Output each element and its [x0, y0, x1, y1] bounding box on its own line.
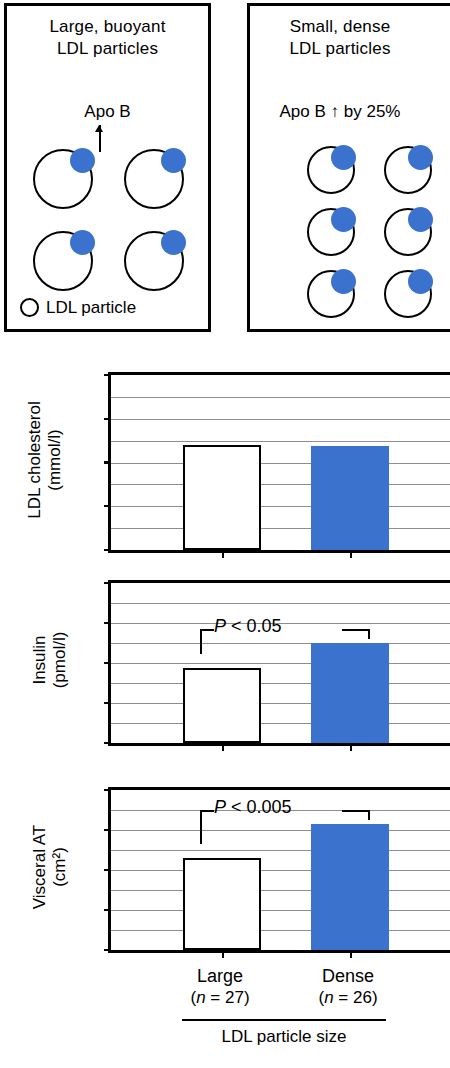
y-tick-mark: [104, 418, 111, 420]
panel-right-title-line2: LDL particles: [250, 38, 430, 60]
chart-2-ylabel: Visceral AT (cm²): [30, 807, 70, 927]
chart-1-ylabel: Insulin (pmol/l): [30, 605, 70, 715]
apo-b-dot-icon: [331, 207, 356, 232]
y-tick-mark: [104, 829, 111, 831]
p-value-label: P < 0.05: [214, 617, 282, 635]
apo-b-arrow-icon-left: [99, 125, 100, 152]
y-tick-mark: [104, 789, 111, 791]
chart-1-ylabel-line2: (pmol/l): [50, 632, 69, 689]
ldl-particle-circle-icon: [20, 298, 39, 317]
chart-0-ylabel: LDL cholesterol (mmol/l): [25, 375, 65, 545]
gridline: [111, 463, 450, 464]
panel-large-buoyant-ldl: Large, buoyant LDL particles Apo B LDL p…: [4, 3, 211, 332]
apo-b-dot-icon: [331, 145, 356, 170]
y-tick-mark: [104, 662, 111, 664]
gridline: [111, 397, 450, 398]
panel-left-title-line2: LDL particles: [7, 38, 208, 60]
ldl-particle-large: [33, 149, 93, 209]
legend-label: LDL particle: [46, 298, 136, 317]
apo-b-dot-icon: [70, 148, 95, 173]
panel-small-dense-ldl: Small, dense LDL particles Apo B ↑ by 25…: [247, 3, 450, 332]
chart-visceral-at: Visceral AT (cm²) 050100150200P < 0.005: [0, 787, 450, 953]
apo-b-label-left: Apo B: [7, 102, 208, 122]
ldl-particle-small: [384, 270, 432, 318]
chart-1-plot-area: 04080120160P < 0.05: [108, 580, 450, 746]
x-group-large: Large (n = 27): [165, 965, 275, 1009]
p-value-label: P < 0.005: [214, 798, 292, 816]
apo-b-dot-icon: [161, 148, 186, 173]
x-tick-mark: [222, 950, 224, 958]
ldl-particle-large: [124, 149, 184, 209]
ldl-particle-large: [33, 231, 93, 291]
apo-b-dot-icon: [408, 145, 433, 170]
y-tick-mark: [104, 461, 111, 463]
chart-0-ylabel-line2: (mmol/l): [45, 429, 64, 490]
bar-large: [183, 445, 261, 550]
chart-ldl-cholesterol: LDL cholesterol (mmol/l) 0.01.53.04.56.0: [0, 372, 450, 553]
legend-ldl-particle: LDL particle: [20, 298, 136, 317]
panel-left-title-line1: Large, buoyant: [7, 16, 208, 38]
y-tick-mark: [104, 909, 111, 911]
ldl-particle-small: [307, 208, 355, 256]
apo-b-dot-icon: [331, 269, 356, 294]
x-tick-mark: [350, 550, 352, 558]
y-tick-mark: [104, 549, 111, 551]
gridline: [111, 528, 450, 529]
y-tick-mark: [104, 869, 111, 871]
x-axis-rule: [182, 1019, 386, 1021]
bar-dense: [311, 446, 389, 550]
chart-0-ylabel-line1: LDL cholesterol: [25, 401, 44, 519]
chart-1-ylabel-line1: Insulin: [30, 635, 49, 684]
apo-b-dot-icon: [70, 230, 95, 255]
y-tick-mark: [104, 505, 111, 507]
x-group-large-n: (n = 27): [165, 987, 275, 1009]
gridline: [111, 484, 450, 485]
ldl-particle-small: [384, 146, 432, 194]
ldl-particle-small: [307, 270, 355, 318]
apo-b-dot-icon: [161, 230, 186, 255]
x-axis-labels: Large (n = 27) Dense (n = 26) LDL partic…: [0, 965, 450, 1068]
y-tick-mark: [104, 582, 111, 584]
x-tick-mark: [350, 743, 352, 751]
panel-left-title: Large, buoyant LDL particles: [7, 16, 208, 60]
ldl-particle-large: [124, 231, 184, 291]
y-tick-mark: [104, 949, 111, 951]
figure-root: Large, buoyant LDL particles Apo B LDL p…: [0, 0, 450, 1068]
significance-bracket: P < 0.005: [111, 790, 450, 950]
chart-insulin: Insulin (pmol/l) 04080120160P < 0.05: [0, 580, 450, 746]
chart-0-plot-area: 0.01.53.04.56.0: [108, 372, 450, 553]
x-group-dense-n: (n = 26): [293, 987, 403, 1009]
apo-b-dot-icon: [408, 207, 433, 232]
y-tick-mark: [104, 622, 111, 624]
ldl-particle-small: [384, 208, 432, 256]
x-group-dense-label: Dense: [293, 965, 403, 987]
apo-b-label-right: Apo B ↑ by 25%: [250, 102, 430, 122]
gridline: [111, 441, 450, 442]
x-tick-mark: [350, 950, 352, 958]
x-tick-mark: [222, 743, 224, 751]
apo-b-dot-icon: [408, 269, 433, 294]
x-group-dense: Dense (n = 26): [293, 965, 403, 1009]
x-axis-title: LDL particle size: [0, 1027, 450, 1047]
y-tick-mark: [104, 742, 111, 744]
chart-2-ylabel-line2: (cm²): [50, 847, 69, 887]
panel-right-title: Small, dense LDL particles: [250, 16, 430, 60]
ldl-particle-small: [307, 146, 355, 194]
gridline: [111, 419, 450, 420]
panel-right-title-line1: Small, dense: [250, 16, 430, 38]
x-group-large-label: Large: [165, 965, 275, 987]
x-tick-mark: [222, 550, 224, 558]
significance-bracket: P < 0.05: [111, 583, 450, 743]
gridline: [111, 506, 450, 507]
chart-2-plot-area: 050100150200P < 0.005: [108, 787, 450, 953]
y-tick-mark: [104, 374, 111, 376]
y-tick-mark: [104, 702, 111, 704]
chart-2-ylabel-line1: Visceral AT: [30, 825, 49, 909]
